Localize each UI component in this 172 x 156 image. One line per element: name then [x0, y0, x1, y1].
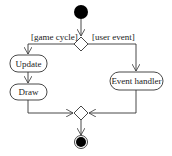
final-node	[75, 136, 88, 149]
edge-draw-merge	[28, 100, 73, 113]
merge-node	[74, 106, 88, 120]
guard-game-cycle: [game cycle]	[31, 32, 78, 42]
action-event-handler: Event handler	[110, 72, 163, 90]
action-update: Update	[10, 55, 47, 72]
edge-event-handler-merge	[89, 90, 136, 113]
activity-diagram: [game cycle] [user event] Update Draw Ev…	[0, 0, 172, 156]
action-draw: Draw	[10, 84, 47, 100]
action-update-label: Update	[16, 59, 42, 69]
action-draw-label: Draw	[19, 87, 39, 97]
initial-node	[74, 5, 88, 19]
edge-decision-event-handler	[88, 44, 136, 71]
action-event-handler-label: Event handler	[111, 76, 161, 86]
edge-decision-update	[28, 44, 74, 54]
guard-user-event: [user event]	[92, 32, 135, 42]
